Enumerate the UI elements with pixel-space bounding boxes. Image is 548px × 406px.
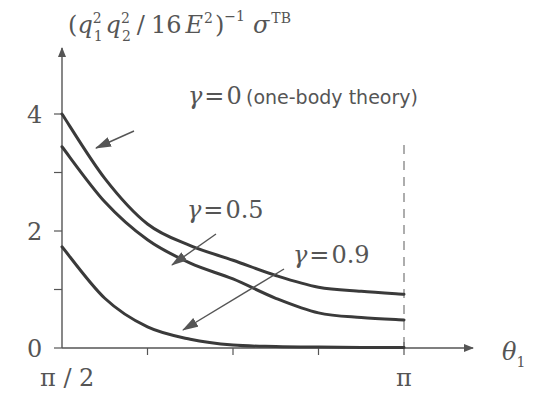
series-curves [62,114,404,347]
x-axis-label: θ1 [502,338,525,370]
y-axis-label: (q21q22/16E2)−1σTB [68,8,291,44]
x-tick-label: π [396,364,412,392]
x-ticks: π / 2π [40,342,412,392]
y-ticks: 024 [27,101,62,363]
y-tick-label: 2 [27,218,42,246]
annotation-gamma-0: γ=0 (one-body theory) [96,82,418,148]
svg-text:γ=0.5: γ=0.5 [187,196,264,224]
chart-canvas: (q21q22/16E2)−1σTB 024 π / 2π γ=0 (one-b… [0,0,548,406]
y-tick-label: 4 [27,101,42,129]
svg-text:γ=0: γ=0 [188,82,242,110]
svg-text:γ=0.9: γ=0.9 [293,241,370,269]
x-tick-label: π / 2 [40,364,94,392]
annotation-note: (one-body theory) [246,86,418,108]
curve-gamma-0.5 [62,147,404,320]
y-tick-label: 0 [27,335,42,363]
annotation-arrow [96,131,134,148]
annotation-arrow [172,234,216,265]
